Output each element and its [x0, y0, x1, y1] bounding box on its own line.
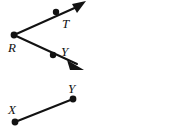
geometry-canvas: R T Y X Y — [0, 0, 170, 129]
label-r: R — [7, 40, 16, 55]
point-dot-r — [11, 32, 18, 39]
ray-rt — [14, 1, 86, 35]
segment-xy-line — [15, 99, 73, 122]
point-dot-t — [53, 9, 59, 15]
ray-rt-line — [14, 6, 79, 35]
label-y-ray: Y — [61, 44, 70, 59]
point-dot-y-segment — [70, 96, 77, 103]
label-y-segment: Y — [68, 81, 77, 96]
geometry-diagram: R T Y X Y — [0, 0, 170, 129]
point-dot-y-ray — [50, 52, 56, 58]
ray-rt-arrowhead — [72, 1, 86, 13]
label-t: T — [62, 16, 70, 31]
point-dot-x — [12, 119, 19, 126]
label-x: X — [7, 102, 17, 117]
ray-ry — [14, 35, 84, 70]
segment-xy — [15, 99, 73, 122]
